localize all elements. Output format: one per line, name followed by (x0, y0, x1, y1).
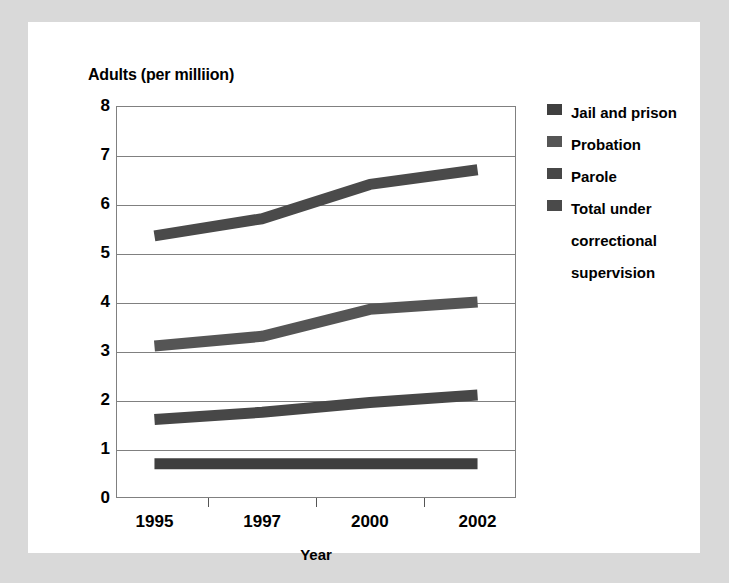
x-axis-tick (424, 498, 425, 507)
legend-item-label: Probation (571, 132, 641, 157)
chart-page: Adults (per milliion) 012345678 19951997… (0, 0, 729, 583)
legend-swatch-icon (547, 200, 562, 211)
y-axis-tick-label: 2 (84, 390, 110, 410)
x-axis-tick-label: 1995 (136, 512, 174, 532)
legend-swatch-icon (547, 104, 562, 115)
series-line (154, 395, 477, 420)
x-axis-tick-labels: 1995199720002002 (116, 512, 516, 538)
x-axis-tick-label: 1997 (243, 512, 281, 532)
y-axis-tick-label: 1 (84, 439, 110, 459)
legend-item: Parole (547, 164, 729, 189)
y-axis-tick-label: 8 (84, 96, 110, 116)
chart-legend: Jail and prisonProbationParoleTotal unde… (547, 100, 729, 292)
y-axis-title: Adults (per milliion) (88, 66, 234, 84)
legend-swatch-icon (547, 136, 562, 147)
legend-item-label: correctional (571, 228, 657, 253)
x-axis-ticks (116, 498, 516, 508)
legend-swatch-spacer (547, 232, 562, 243)
legend-item-label: Total under (571, 196, 652, 221)
y-axis-tick-label: 6 (84, 194, 110, 214)
y-axis-tick-label: 4 (84, 292, 110, 312)
legend-item: Jail and prison (547, 100, 729, 125)
y-axis-tick-label: 5 (84, 243, 110, 263)
series-line (154, 302, 477, 346)
series-layer (116, 106, 516, 498)
x-axis-tick-label: 2000 (351, 512, 389, 532)
y-axis-tick-label: 7 (84, 145, 110, 165)
legend-item-label: Jail and prison (571, 100, 677, 125)
x-axis-tick (316, 498, 317, 507)
x-axis-tick (208, 498, 209, 507)
y-axis-tick-label: 0 (84, 488, 110, 508)
legend-item: Total under (547, 196, 729, 221)
legend-item: correctional (547, 228, 729, 253)
legend-item-label: Parole (571, 164, 617, 189)
legend-item: supervision (547, 260, 729, 285)
chart-card: Adults (per milliion) 012345678 19951997… (28, 22, 700, 553)
series-line (154, 170, 477, 236)
x-axis-title: Year (116, 546, 516, 563)
legend-swatch-spacer (547, 264, 562, 275)
y-axis-tick-label: 3 (84, 341, 110, 361)
x-axis-tick-label: 2002 (459, 512, 497, 532)
y-axis-tick-labels: 012345678 (80, 106, 110, 498)
legend-swatch-icon (547, 168, 562, 179)
legend-item: Probation (547, 132, 729, 157)
legend-item-label: supervision (571, 260, 655, 285)
